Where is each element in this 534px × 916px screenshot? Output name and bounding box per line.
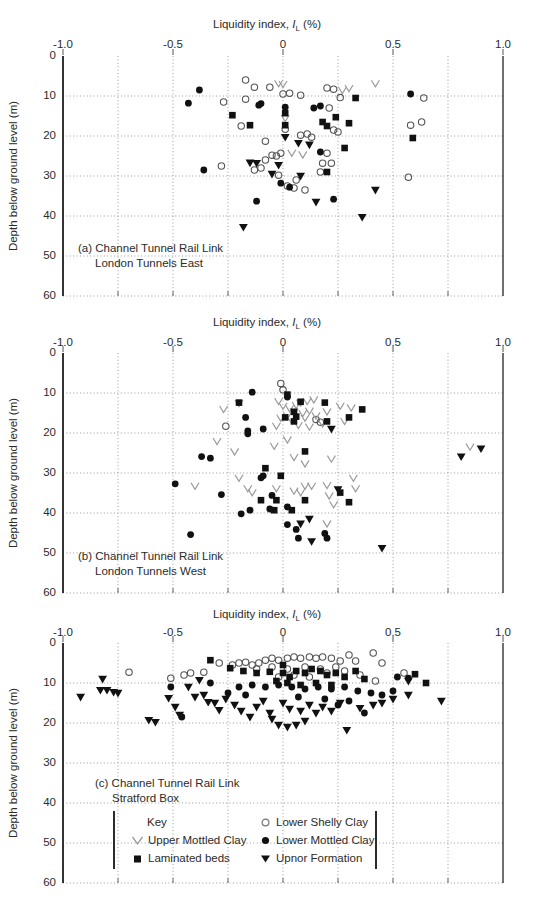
data-point-filled-triangle-down bbox=[404, 678, 413, 686]
data-point-filled-circle bbox=[255, 102, 262, 109]
data-point-filled-square bbox=[291, 418, 298, 425]
legend-column-1: Key Upper Mottled Clay Laminated beds bbox=[115, 813, 259, 867]
data-point-open-circle bbox=[262, 138, 268, 144]
data-point-open-triangle-down bbox=[323, 482, 331, 489]
data-point-filled-square bbox=[293, 668, 300, 675]
data-point-open-triangle-down bbox=[272, 485, 280, 492]
data-point-open-circle bbox=[379, 660, 385, 666]
data-point-open-circle bbox=[306, 654, 312, 660]
data-point-filled-circle bbox=[328, 686, 335, 693]
data-point-open-triangle-down bbox=[338, 87, 346, 94]
y-tick-label: 0 bbox=[16, 346, 56, 358]
data-point-filled-circle bbox=[354, 688, 361, 695]
data-point-open-circle bbox=[405, 174, 411, 180]
figure-root: Key Upper Mottled Clay Laminated beds Lo… bbox=[0, 0, 534, 916]
data-point-filled-circle bbox=[346, 698, 353, 705]
legend-item-label: Upper Mottled Clay bbox=[148, 834, 246, 846]
data-point-open-circle bbox=[168, 675, 174, 681]
data-point-open-circle bbox=[181, 672, 187, 678]
data-point-filled-triangle-down bbox=[283, 724, 292, 732]
data-point-open-triangle-down bbox=[347, 404, 355, 411]
data-point-open-circle bbox=[372, 678, 378, 684]
data-point-open-triangle-down bbox=[191, 483, 199, 490]
data-point-filled-square bbox=[412, 671, 419, 678]
data-point-filled-square bbox=[352, 95, 359, 102]
panel-caption: (a) Channel Tunnel Rail LinkLondon Tunne… bbox=[78, 241, 223, 271]
data-point-open-circle bbox=[297, 92, 303, 98]
y-tick-label: 50 bbox=[16, 546, 56, 558]
data-point-filled-circle bbox=[200, 167, 207, 174]
data-point-filled-square bbox=[324, 672, 331, 679]
data-point-open-circle bbox=[251, 167, 257, 173]
data-point-filled-circle bbox=[302, 686, 309, 693]
data-point-filled-circle bbox=[198, 453, 205, 460]
data-point-filled-square bbox=[253, 670, 260, 677]
data-point-open-circle bbox=[317, 169, 323, 175]
data-point-filled-triangle-down bbox=[292, 722, 301, 730]
data-point-filled-square bbox=[341, 145, 348, 152]
data-point-filled-triangle-down bbox=[191, 694, 200, 702]
data-point-filled-circle bbox=[207, 455, 214, 462]
data-point-open-triangle-down bbox=[220, 406, 228, 413]
y-tick-label: 50 bbox=[16, 836, 56, 848]
data-point-filled-circle bbox=[275, 682, 282, 689]
data-point-open-circle bbox=[218, 163, 224, 169]
data-point-filled-triangle-down bbox=[327, 708, 336, 716]
data-point-filled-triangle-down bbox=[215, 707, 224, 715]
legend-item-label: Laminated beds bbox=[148, 852, 230, 864]
data-point-filled-square bbox=[333, 670, 340, 677]
data-point-filled-circle bbox=[218, 491, 225, 498]
data-point-filled-triangle-down bbox=[237, 708, 246, 716]
data-point-filled-square bbox=[324, 123, 331, 130]
y-tick-label: 60 bbox=[16, 586, 56, 598]
data-point-filled-triangle-down bbox=[305, 702, 314, 710]
data-point-filled-square bbox=[302, 497, 309, 504]
x-tick-label: 1.0 bbox=[486, 336, 520, 348]
data-point-filled-circle bbox=[295, 535, 302, 542]
filled-triangle-down-icon bbox=[259, 853, 272, 864]
data-point-open-circle bbox=[256, 660, 262, 666]
data-point-filled-circle bbox=[266, 506, 273, 513]
data-point-filled-triangle-down bbox=[221, 696, 230, 704]
data-point-open-circle bbox=[302, 664, 308, 670]
legend-title: Key bbox=[131, 813, 259, 831]
y-tick-label: 30 bbox=[16, 169, 56, 181]
data-point-open-circle bbox=[267, 84, 273, 90]
x-tick-label: 0 bbox=[266, 626, 300, 638]
data-point-filled-triangle-down bbox=[301, 718, 310, 726]
data-point-open-circle bbox=[262, 657, 268, 663]
data-point-filled-triangle-down bbox=[437, 698, 446, 706]
x-axis-title: Liquidity index, IL (%) bbox=[0, 608, 534, 623]
data-point-filled-circle bbox=[242, 692, 249, 699]
data-point-filled-circle bbox=[269, 492, 276, 499]
y-tick-label: 30 bbox=[16, 756, 56, 768]
data-point-open-circle bbox=[328, 160, 334, 166]
data-point-open-triangle-down bbox=[213, 438, 221, 445]
data-point-open-circle bbox=[352, 658, 358, 664]
data-point-filled-triangle-down bbox=[327, 426, 336, 434]
data-point-filled-circle bbox=[317, 149, 324, 156]
data-point-open-triangle-down bbox=[297, 489, 305, 496]
data-point-filled-circle bbox=[394, 674, 401, 681]
data-point-filled-circle bbox=[284, 521, 291, 528]
data-point-filled-triangle-down bbox=[184, 684, 193, 692]
data-point-open-triangle-down bbox=[270, 443, 278, 450]
open-triangle-down-icon bbox=[131, 835, 144, 846]
data-point-filled-circle bbox=[379, 692, 386, 699]
data-point-filled-circle bbox=[249, 682, 256, 689]
data-point-filled-square bbox=[282, 110, 289, 117]
data-point-open-circle bbox=[324, 85, 330, 91]
data-point-open-circle bbox=[304, 131, 310, 137]
data-point-open-circle bbox=[251, 84, 257, 90]
y-tick-label: 10 bbox=[16, 386, 56, 398]
data-point-filled-circle bbox=[368, 690, 375, 697]
x-tick-label: 0 bbox=[266, 38, 300, 50]
data-point-filled-square bbox=[282, 122, 289, 129]
y-tick-label: 20 bbox=[16, 716, 56, 728]
data-point-filled-circle bbox=[262, 684, 269, 691]
data-point-open-triangle-down bbox=[288, 150, 296, 157]
data-point-open-triangle-down bbox=[466, 444, 474, 451]
data-point-filled-circle bbox=[258, 474, 265, 481]
legend-item-label: Lower Shelly Clay bbox=[276, 816, 368, 828]
legend-column-2: Lower Shelly Clay Lower Mottled Clay Upn… bbox=[259, 813, 375, 867]
